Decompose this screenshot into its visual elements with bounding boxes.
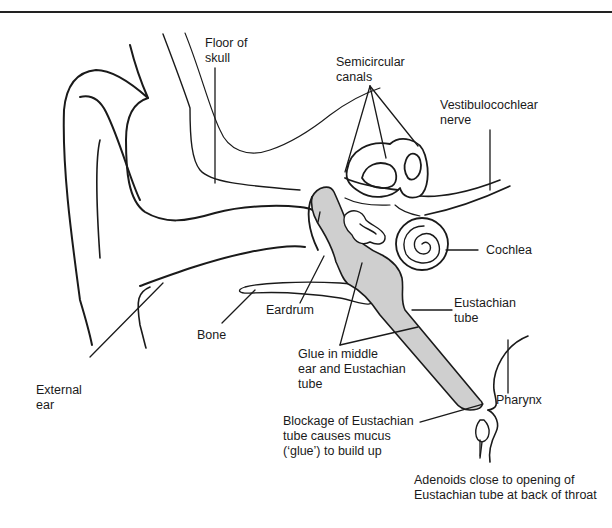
label-external-ear: External ear [36,383,82,413]
label-glue-middle-ear: Glue in middle ear and Eustachian tube [298,347,406,392]
semicircular-canals-shape [345,139,428,205]
label-adenoids: Adenoids close to opening of Eustachian … [414,473,597,503]
label-floor-of-skull: Floor of skull [205,36,247,66]
label-semicircular-canals: Semicircular canals [336,55,405,85]
label-pharynx: Pharynx [496,393,542,408]
label-vestibulocochlear-nerve: Vestibulocochlear nerve [440,98,538,128]
label-cochlea: Cochlea [486,243,532,258]
adenoid-shape [476,420,489,458]
ear-canal [138,207,320,348]
label-eustachian-tube: Eustachian tube [454,296,516,326]
label-blockage: Blockage of Eustachian tube causes mucus… [283,414,414,459]
label-bone: Bone [197,328,226,343]
cochlea-shape [396,218,448,270]
label-eardrum: Eardrum [266,303,314,318]
external-ear-outline [64,34,300,345]
